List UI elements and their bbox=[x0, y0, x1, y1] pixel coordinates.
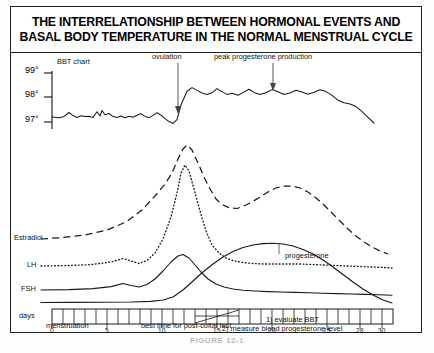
peak-progesterone-label: peak progesterone production bbox=[214, 52, 312, 61]
lh-curve bbox=[41, 165, 392, 268]
bbt-curve bbox=[52, 88, 374, 124]
bbt-tick-label-98: 98° bbox=[25, 89, 39, 99]
chart-svg bbox=[11, 53, 420, 334]
bbt-tick-label-97: 97° bbox=[25, 114, 39, 124]
day-tick-label-5: 5 bbox=[105, 327, 109, 334]
post-coital-annotation: best time for post-coital test bbox=[141, 321, 231, 330]
days-axis-label: days bbox=[19, 311, 35, 320]
estradiol-curve bbox=[41, 145, 388, 254]
chart-plot-area: BBT chart 99° 98° 97° ovulation peak pro… bbox=[11, 53, 421, 334]
progesterone-label: progesterone bbox=[285, 251, 329, 260]
day-tick-label-28: 28 bbox=[356, 327, 363, 334]
menstruation-annotation: menstruation bbox=[46, 321, 89, 330]
lh-label: LH bbox=[27, 260, 36, 269]
title-box: THE INTERRELATIONSHIP BETWEEN HORMONAL E… bbox=[11, 7, 421, 53]
ovulation-label: ovulation bbox=[152, 52, 182, 61]
bbt-chart-label: BBT chart bbox=[57, 57, 90, 66]
title-line-1: THE INTERRELATIONSHIP BETWEEN HORMONAL E… bbox=[32, 15, 400, 30]
bbt-tick-label-99: 99° bbox=[25, 65, 39, 75]
figure-caption: FIGURE 12-1 bbox=[0, 336, 434, 345]
estradiol-label: Estradiol bbox=[14, 233, 43, 242]
measure-progesterone-annotation: 2) measure blood progesterone level bbox=[222, 324, 342, 333]
fsh-curve bbox=[41, 255, 392, 296]
title-line-2: BASAL BODY TEMPERATURE IN THE NORMAL MEN… bbox=[20, 30, 413, 45]
day-tick-label-30: 30 bbox=[378, 327, 385, 334]
figure-frame: THE INTERRELATIONSHIP BETWEEN HORMONAL E… bbox=[10, 6, 422, 333]
figure-container: THE INTERRELATIONSHIP BETWEEN HORMONAL E… bbox=[0, 0, 434, 353]
evaluate-bbt-annotation: 1) evaluate BBT bbox=[266, 315, 319, 324]
fsh-label: FSH bbox=[21, 284, 36, 293]
